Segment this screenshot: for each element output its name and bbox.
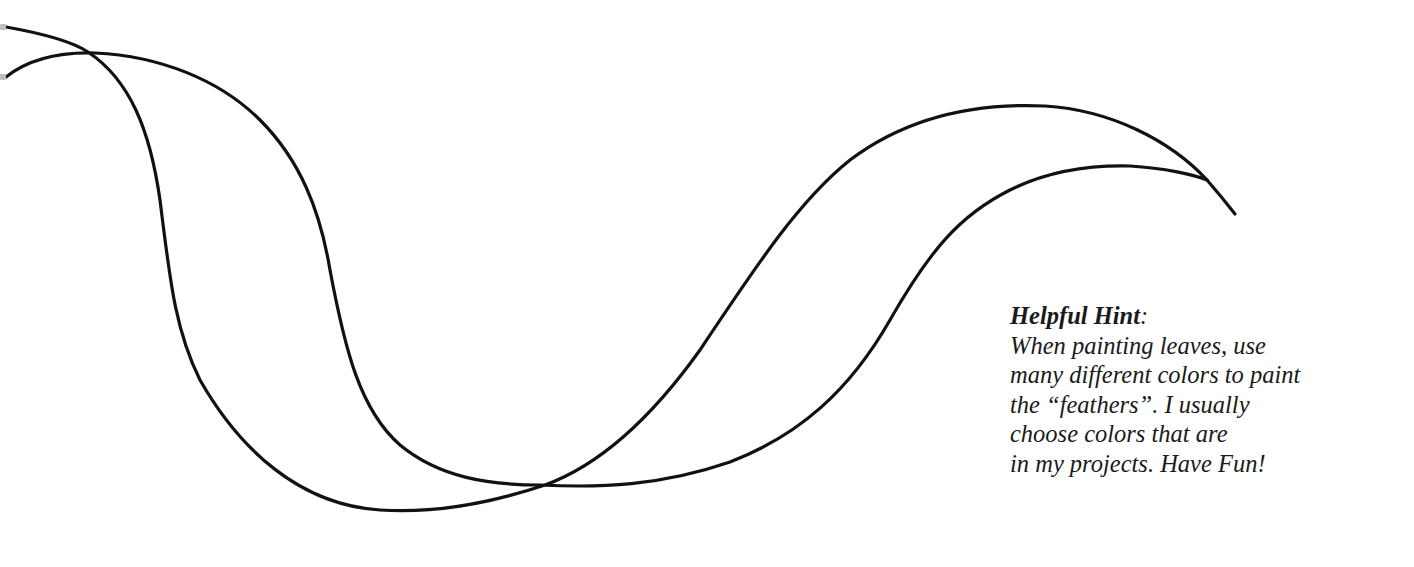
hint-title: Helpful Hint bbox=[1010, 302, 1140, 329]
hint-line: the “feathers”. I usually bbox=[1010, 390, 1410, 420]
hint-heading: Helpful Hint: bbox=[1010, 301, 1410, 331]
hint-line: choose colors that are bbox=[1010, 419, 1410, 449]
page-edge-mark bbox=[0, 74, 6, 80]
leaf-outline-drawing bbox=[0, 0, 1414, 567]
hint-line: many different colors to paint bbox=[1010, 360, 1410, 390]
page-edge-mark bbox=[0, 24, 6, 30]
hint-line: When painting leaves, use bbox=[1010, 331, 1410, 361]
hint-line: in my projects. Have Fun! bbox=[1010, 449, 1410, 479]
hint-title-colon: : bbox=[1140, 302, 1148, 329]
helpful-hint-block: Helpful Hint: When painting leaves, use … bbox=[1010, 301, 1410, 479]
